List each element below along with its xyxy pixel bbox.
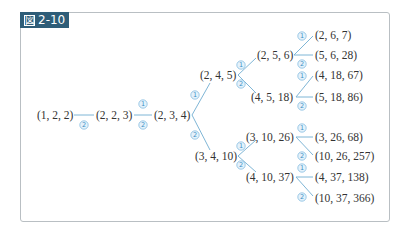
svg-text:2: 2 (82, 121, 86, 129)
svg-text:2: 2 (141, 121, 145, 129)
tree-node: (5, 6, 28) (315, 49, 357, 62)
tree-node: (4, 5, 18) (251, 91, 293, 104)
branch-badge-icon: 1 (191, 91, 199, 100)
branch-badge-icon: 2 (237, 161, 245, 170)
branch-badge-icon: 1 (237, 61, 245, 70)
tree-node: (4, 37, 138) (315, 171, 369, 184)
tree-node: (10, 37, 366) (315, 192, 375, 205)
branch-badge-icon: 2 (298, 60, 306, 69)
branch-badge-icon: 1 (237, 142, 245, 151)
svg-text:1: 1 (300, 164, 304, 172)
tree-node: (2, 5, 6) (257, 49, 294, 62)
tree-diagram: 21212121212121212(1, 2, 2)(2, 2, 3)(2, 3… (0, 0, 410, 237)
branch-badge-icon: 1 (298, 32, 306, 41)
svg-text:2: 2 (300, 193, 304, 201)
branch-badge-icon: 2 (298, 102, 306, 111)
svg-text:1: 1 (141, 100, 145, 108)
branch-badge-icon: 2 (298, 152, 306, 161)
tree-node: (2, 6, 7) (315, 29, 352, 42)
svg-text:1: 1 (239, 61, 243, 69)
svg-text:2: 2 (300, 60, 304, 68)
branch-badge-icon: 1 (298, 164, 306, 173)
branch-badge-icon: 1 (298, 124, 306, 133)
tree-node: (10, 26, 257) (315, 150, 375, 163)
svg-text:2: 2 (239, 161, 243, 169)
tree-node: (3, 26, 68) (315, 131, 363, 144)
svg-text:2: 2 (239, 80, 243, 88)
svg-text:1: 1 (300, 32, 304, 40)
tree-node: (1, 2, 2) (37, 109, 74, 122)
tree-node: (2, 3, 4) (154, 109, 191, 122)
tree-node: (5, 18, 86) (315, 91, 363, 104)
svg-text:1: 1 (300, 72, 304, 80)
tree-node: (2, 2, 3) (96, 109, 133, 122)
tree-node: (4, 10, 37) (246, 171, 294, 184)
branch-badge-icon: 1 (139, 100, 147, 109)
branch-badge-icon: 2 (298, 193, 306, 202)
tree-node: (2, 4, 5) (200, 69, 237, 82)
tree-edge (296, 177, 313, 196)
svg-text:1: 1 (300, 124, 304, 132)
branch-badge-icon: 1 (298, 72, 306, 81)
svg-text:1: 1 (239, 142, 243, 150)
tree-node: (3, 4, 10) (195, 150, 237, 163)
svg-text:2: 2 (300, 102, 304, 110)
svg-text:2: 2 (300, 152, 304, 160)
branch-badge-icon: 2 (139, 121, 147, 130)
svg-text:1: 1 (193, 91, 197, 99)
tree-node: (3, 10, 26) (246, 131, 294, 144)
branch-badge-icon: 2 (191, 131, 199, 140)
branch-badge-icon: 2 (237, 80, 245, 89)
tree-node: (4, 18, 67) (315, 69, 363, 82)
svg-text:2: 2 (193, 131, 197, 139)
branch-badge-icon: 2 (80, 121, 88, 130)
